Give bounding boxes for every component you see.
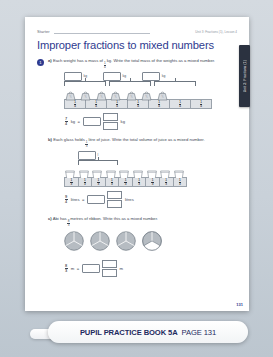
part-b-fraction-strip: 13 13 13 13 13 13 13 13 13 [64,177,187,187]
part-a-weights-row: ¼ ¼ ¼ ¼ ¼ ¼ [64,87,237,98]
part-b-prompt: b) Each glass holds13litre of juice. Wri… [48,137,237,148]
part-c-prompt: c) Abi has83metres of ribbon. Write this… [48,216,237,227]
part-a-prompt: a) Each weight has a mass of14kg. Write … [48,58,237,69]
unit-lesson-label: Unit 3: Fractions (1), Lesson 4 [195,30,237,34]
strip-cell: 13 [92,178,106,186]
glass-icon [105,166,117,176]
part-a-text-before: Each weight has a mass of [53,58,103,63]
glass-icon [91,166,103,176]
strip-cell: 13 [160,178,174,186]
strip-cell: 14 [149,100,170,108]
part-b-whole-answer-box[interactable] [87,195,105,204]
weight-icon: ¼ [79,87,92,98]
page-title: Improper fractions to mixed numbers [37,39,237,51]
part-c-equals: = [77,266,79,271]
glass-icon [64,166,76,176]
strip-cell: 13 [146,178,160,186]
part-a-answer-given-fraction: 74 [65,117,68,126]
strip-cell: 14 [65,100,86,108]
question-number-badge: 1 [37,59,44,66]
part-c-whole-answer-box[interactable] [82,264,100,273]
strip-cell: 13 [119,178,133,186]
part-c-answer-given-fraction: 83 [65,264,68,273]
part-a-group-answer-row: kg kg kg [48,72,237,81]
thirds-circle-partial [142,231,162,255]
weight-icon: ¼ [109,87,122,98]
strip-cell: 14 [86,100,107,108]
question-1: 1 a) Each weight has a mass of14kg. Writ… [37,58,237,277]
part-b-equals: = [82,197,84,202]
unit-side-tab: Unit 3: Fractions (1) [239,45,250,107]
part-a-letter: a) [48,58,52,63]
banner-page-label: PAGE 131 [182,328,217,337]
thirds-circle-full [90,231,110,255]
page-meta-row: Starter Unit 3: Fractions (1), Lesson 4 [37,23,237,34]
part-a-equals: = [78,119,80,124]
part-b-glasses-row [64,166,237,176]
part-b-text-before: Each glass holds [53,137,85,142]
strip-cell: 14 [128,100,149,108]
part-b-brackets [64,160,237,166]
part-b-answer-given-fraction: 94 [65,195,68,204]
part-a-unit-right: kg [121,119,125,124]
part-c-text-before: Abi has [53,216,67,221]
part-b-letter: b) [48,137,52,142]
glass-icon [173,166,185,176]
weight-icon: ¼ [64,87,77,98]
strip-cell: 14 [107,100,128,108]
part-b-unit-left: litres [71,197,80,202]
part-a-fraction-answer-box[interactable] [103,113,118,130]
strip-cell: 14 [170,100,191,108]
glass-icon [118,166,130,176]
part-b-group-answer-row: l [48,151,237,160]
thirds-circle-full [116,231,136,255]
part-b-answer-row: 94 litres = litres [64,191,237,208]
unit-side-tab-label: Unit 3: Fractions (1) [243,60,247,92]
page-number: 131 [236,302,243,307]
part-a-unit-left: kg [71,119,75,124]
strip-cell: 13 [65,178,79,186]
part-c-letter: c) [48,216,52,221]
strip-cell: 13 [79,178,93,186]
strip-cell: 14 [191,100,211,108]
part-a-whole-answer-box[interactable] [83,117,101,126]
part-b-text-after: litre of juice. Write the total volume o… [89,137,205,142]
strip-cell: 13 [106,178,120,186]
starter-label: Starter [37,29,50,34]
starter-write-line[interactable] [54,27,150,34]
part-c-fraction-answer-box[interactable] [102,260,117,277]
part-a-text-after: kg. Write the total mass of the weights … [107,58,215,63]
weight-icon: ¼ [95,87,108,98]
banner-book-label: PUPIL PRACTICE BOOK 5A [80,328,178,337]
strip-cell: 13 [174,178,187,186]
group-box-b1[interactable]: l [78,151,98,160]
group-box-1[interactable]: kg [64,72,87,81]
strip-cell: 13 [133,178,147,186]
part-c-answer-row: 83 m = m [64,260,237,277]
unit-label-kg-3: kg [162,74,166,78]
weight-icon: ¼ [140,87,153,98]
glass-icon [146,166,158,176]
group-box-3[interactable]: kg [142,72,165,81]
glass-icon [132,166,144,176]
part-c-text-after: metres of ribbon. Write this as a mixed … [70,216,158,221]
part-c-unit-right: m [120,266,124,271]
worksheet-page: Starter Unit 3: Fractions (1), Lesson 4 … [25,17,249,311]
weight-icon: ¼ [125,87,138,98]
book-page-banner: PUPIL PRACTICE BOOK 5A PAGE 131 [48,321,248,343]
weight-icon: ¼ [156,87,169,98]
part-a-fraction-strip: 14 14 14 14 14 14 14 [64,99,212,109]
glass-icon [159,166,171,176]
part-b-fraction-answer-box[interactable] [107,191,122,208]
part-c-unit-left: m [71,266,75,271]
glass-icon [78,166,90,176]
unit-label-kg-2: kg [123,74,127,78]
part-c-circles-row [64,231,237,255]
part-a-answer-row: 74 kg = kg [64,113,237,130]
part-b-unit-right: litres [125,197,134,202]
thirds-circle-full [64,231,84,255]
group-box-2[interactable]: kg [103,72,126,81]
